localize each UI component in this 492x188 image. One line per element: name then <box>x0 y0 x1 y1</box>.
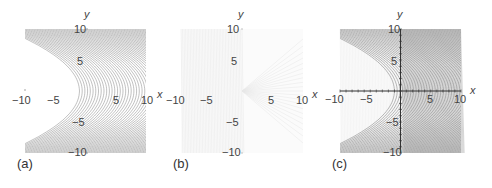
y-tick-5: 5 <box>77 55 83 67</box>
panel-label-b: (b) <box>173 156 189 171</box>
contour-lines <box>0 23 164 159</box>
x-tick-10: 10 <box>454 93 466 105</box>
x-tick-neg5: −5 <box>200 94 213 106</box>
panel-a: y x 10 5 −5 −10 −10 −5 5 10 (a) <box>0 0 164 188</box>
y-tick-10: 10 <box>227 23 239 35</box>
contour-plot-c <box>327 0 491 188</box>
x-tick-neg10: −10 <box>12 94 31 106</box>
y-tick-neg5: −5 <box>386 116 399 128</box>
x-tick-neg5: −5 <box>47 94 60 106</box>
x-tick-neg10: −10 <box>325 93 344 105</box>
y-tick-5: 5 <box>231 55 237 67</box>
x-axis-label: x <box>157 88 163 100</box>
x-tick-10: 10 <box>296 94 308 106</box>
x-tick-neg10: −10 <box>166 94 185 106</box>
x-tick-10: 10 <box>141 94 153 106</box>
y-tick-5: 5 <box>391 55 397 67</box>
panel-label-a: (a) <box>17 156 33 171</box>
panel-b: y x 10 5 −5 −10 −10 −5 5 10 (b) <box>165 0 329 188</box>
panel-c: y x 10 5 −5 −10 −10 −5 5 10 (c) <box>327 0 491 188</box>
y-tick-10: 10 <box>74 23 86 35</box>
x-axis-label: x <box>312 88 318 100</box>
x-tick-neg5: −5 <box>360 93 373 105</box>
y-tick-neg10: −10 <box>383 146 402 158</box>
y-tick-neg5: −5 <box>226 116 239 128</box>
x-axis-label: x <box>470 84 476 96</box>
panel-label-c: (c) <box>332 156 347 171</box>
y-tick-10: 10 <box>388 23 400 35</box>
y-tick-neg10: −10 <box>222 146 241 158</box>
x-tick-5: 5 <box>268 94 274 106</box>
x-tick-5: 5 <box>113 94 119 106</box>
y-axis-label: y <box>84 8 90 20</box>
y-tick-neg5: −5 <box>72 116 85 128</box>
y-axis-label: y <box>397 8 403 20</box>
y-axis-label: y <box>238 8 244 20</box>
y-tick-neg10: −10 <box>68 146 87 158</box>
x-tick-5: 5 <box>427 93 433 105</box>
